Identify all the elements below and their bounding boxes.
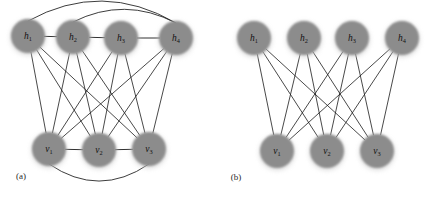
node-v2[interactable]: v2	[309, 134, 345, 171]
edge-h3-v3	[125, 54, 145, 134]
panel-caption-a: (a)	[16, 171, 26, 181]
edge-h4-v3	[153, 54, 172, 134]
edge-h1-v1	[257, 54, 274, 136]
node-h2[interactable]: h2	[55, 20, 91, 57]
node-h1[interactable]: h1	[10, 19, 46, 56]
edge-h4-v1	[289, 49, 390, 141]
node-v1[interactable]: v1	[31, 132, 67, 169]
edge-h2-v2	[307, 54, 324, 136]
node-label-subscript: 1	[50, 148, 53, 155]
panel-a: h1h2h3h4v1v2v3(a)	[10, 1, 194, 181]
network-diagram: h1h2h3h4v1v2v3(a)h1h2h3h4v1v2v3(b)	[0, 0, 433, 201]
node-label-subscript: 2	[100, 149, 103, 156]
edge-h2-v1	[281, 54, 301, 136]
edge-h4-v2	[336, 51, 393, 137]
panel-b-visible-layer: v1v2v3	[259, 134, 395, 171]
figure-root: h1h2h3h4v1v2v3(a)h1h2h3h4v1v2v3(b)	[0, 0, 433, 201]
node-label-subscript: 1	[255, 37, 258, 44]
node-label-subscript: 3	[150, 148, 153, 155]
node-label-subscript: 2	[74, 36, 77, 43]
node-label-subscript: 1	[278, 150, 281, 157]
node-v2[interactable]: v2	[81, 133, 117, 170]
node-h3[interactable]: h3	[334, 21, 370, 58]
node-h4[interactable]: h4	[158, 21, 194, 58]
node-label-subscript: 3	[378, 150, 381, 157]
node-label-subscript: 2	[328, 150, 331, 157]
panel-b-hidden-layer: h1h2h3h4	[236, 21, 420, 58]
edge-h1-v1	[31, 52, 46, 134]
edge-h3-v1	[286, 51, 343, 137]
node-label-subscript: 1	[29, 35, 32, 42]
edge-h4-v1	[61, 49, 164, 139]
panel-caption-b: (b)	[231, 172, 242, 182]
panel-b: h1h2h3h4v1v2v3(b)	[231, 21, 420, 182]
node-h2[interactable]: h2	[286, 21, 322, 58]
arc-edge-h2-h4	[73, 9, 176, 23]
panels-group: h1h2h3h4v1v2v3(a)h1h2h3h4v1v2v3(b)	[10, 1, 420, 182]
node-h1[interactable]: h1	[236, 21, 272, 58]
edge-h2-v3	[82, 50, 140, 136]
edge-h3-v2	[102, 54, 118, 135]
node-v1[interactable]: v1	[259, 134, 295, 171]
node-v3[interactable]: v3	[131, 132, 167, 169]
panel-a-hidden-layer: h1h2h3h4	[10, 19, 194, 58]
node-label-subscript: 3	[353, 37, 356, 44]
panel-a-visible-layer: v1v2v3	[31, 132, 167, 170]
edge-h4-v2	[108, 51, 167, 137]
node-h3[interactable]: h3	[103, 21, 139, 58]
panel-b-edges	[257, 49, 398, 141]
node-h4[interactable]: h4	[384, 21, 420, 58]
node-label-subscript: 2	[305, 37, 308, 44]
edge-h2-v3	[313, 51, 369, 137]
node-v3[interactable]: v3	[359, 134, 395, 171]
node-label-subscript: 3	[122, 37, 125, 44]
